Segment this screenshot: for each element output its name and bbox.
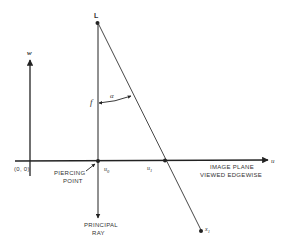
origin-label: (0, 0) bbox=[14, 166, 30, 172]
piercing-point-pointer bbox=[86, 164, 95, 171]
focal-length-label: f bbox=[90, 97, 94, 107]
x1-point bbox=[199, 229, 203, 233]
piercing-point-label-1: PIERCING bbox=[54, 170, 85, 176]
u-axis-label: u bbox=[271, 157, 275, 165]
angle-label: α bbox=[110, 92, 114, 100]
image-ray-line bbox=[98, 23, 201, 230]
angle-arc bbox=[99, 96, 131, 103]
u1-label: u1 bbox=[147, 165, 152, 173]
u-axis-line bbox=[15, 160, 268, 161]
piercing-point bbox=[96, 159, 100, 163]
piercing-point-label-2: POINT bbox=[63, 178, 83, 184]
camera-geometry-diagram: u w (0, 0) L u0 PIERCING POINT u1 x1 IMA… bbox=[0, 0, 286, 248]
image-plane-label-1: IMAGE PLANE bbox=[210, 164, 254, 170]
x1-label: x1 bbox=[204, 226, 210, 234]
u1-point bbox=[163, 159, 167, 163]
principal-ray-label-1: PRINCIPAL bbox=[84, 222, 118, 228]
lens-point-label: L bbox=[94, 12, 99, 19]
w-axis-label: w bbox=[27, 49, 32, 57]
principal-ray-label-2: RAY bbox=[92, 230, 105, 236]
image-plane-label-2: VIEWED EDGEWISE bbox=[200, 172, 262, 178]
u0-label: u0 bbox=[104, 166, 110, 174]
